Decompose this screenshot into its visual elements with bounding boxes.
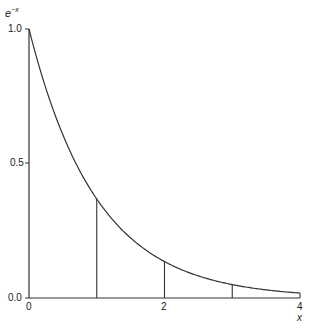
x-tick-label-4: 4	[297, 302, 303, 312]
x-tick-label-2: 2	[161, 302, 167, 312]
chart-plot	[0, 0, 311, 331]
y-tick-label-1: 1.0	[8, 24, 22, 34]
y-tick-label-0: 0.0	[8, 293, 22, 303]
exp-decay-curve	[29, 29, 300, 293]
x-tick-label-0: 0	[26, 302, 32, 312]
x-axis-label: x	[297, 313, 302, 323]
y-tick-label-05: 0.5	[10, 158, 24, 168]
y-axis-label-exponent: −x	[11, 6, 19, 13]
ordinate-lines	[97, 199, 300, 298]
y-axis-label: e−x	[5, 6, 19, 19]
